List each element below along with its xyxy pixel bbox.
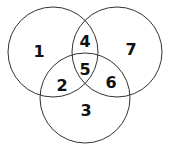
venn-svg: 1475263 <box>0 0 171 155</box>
region-label-3: 3 <box>80 101 91 120</box>
region-label-6: 6 <box>105 73 116 92</box>
region-label-2: 2 <box>56 76 67 95</box>
region-label-4: 4 <box>79 32 90 51</box>
region-label-7: 7 <box>125 40 136 59</box>
region-label-1: 1 <box>33 42 44 61</box>
venn-diagram: 1475263 <box>0 0 171 155</box>
circle-top-right <box>72 7 162 97</box>
region-label-5: 5 <box>79 60 90 79</box>
